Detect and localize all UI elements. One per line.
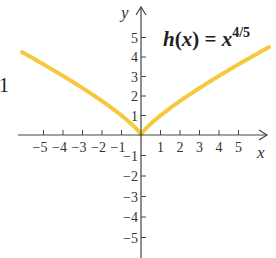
y-axis-label: y [119,3,129,22]
x-tick-label: 5 [235,140,242,155]
y-tick-label: 4 [131,50,138,65]
x-tick-label: 3 [196,140,203,155]
title-eq: = [199,27,221,51]
title-open: ( [175,27,182,51]
x-tick-label: 1 [157,140,164,155]
x-tick-label: −2 [91,140,106,155]
margin-label: 1 [0,74,9,96]
title-base: x [221,27,233,51]
curve-h-of-x [22,47,269,134]
x-tick-label: 2 [177,140,184,155]
chart-title: h(x) = x4/5 [163,25,250,51]
y-tick-label: 1 [131,109,138,124]
y-ticks: 54321−1−2−3−4−5 [123,31,146,246]
y-tick-label: 5 [131,31,138,46]
x-tick-label: 4 [216,140,223,155]
function-plot: 1 −5−4−3−2−112345 54321−1−2−3−4−5 x y h(… [0,0,276,258]
x-tick-label: −4 [52,140,67,155]
y-tick-label: −4 [123,210,138,225]
title-var: x [181,27,193,51]
y-tick-label: −1 [123,149,138,164]
x-axis-label: x [256,143,265,162]
y-tick-label: 2 [131,89,138,104]
title-func: h [163,27,175,51]
title-exponent: 4/5 [232,25,250,40]
y-tick-label: 3 [131,70,138,85]
x-tick-label: −3 [72,140,87,155]
x-tick-label: −5 [33,140,48,155]
title-close: ) [192,27,199,51]
y-tick-label: −2 [123,169,138,184]
y-tick-label: −5 [123,231,138,246]
y-tick-label: −3 [123,190,138,205]
